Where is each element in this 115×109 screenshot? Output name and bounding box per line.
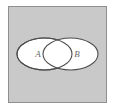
venn-diagram: A B [0, 0, 115, 109]
set-b-ellipse[interactable] [43, 38, 98, 70]
venn-diagram-canvas: A B [0, 0, 115, 109]
set-a-label: A [34, 49, 41, 59]
set-b-label: B [74, 49, 80, 59]
